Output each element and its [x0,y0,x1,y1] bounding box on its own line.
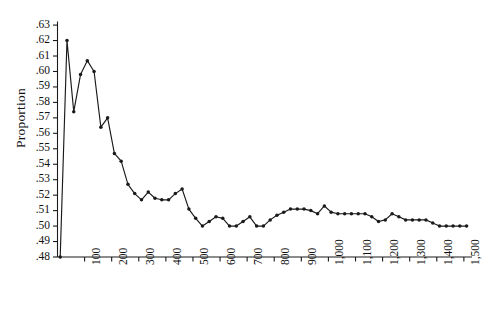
plot-area [0,0,482,315]
data-point [255,224,259,228]
data-point [438,224,442,228]
y-tick-label: .57 [20,110,50,122]
y-tick-label: .50 [20,219,50,231]
x-tick-label: 1,100 [361,239,373,265]
y-tick-label: .56 [20,126,50,138]
data-point [113,152,117,156]
data-point [140,198,144,202]
data-point [390,212,394,216]
data-point [72,110,76,114]
data-point [221,217,225,221]
x-tick-label: 1,400 [442,239,454,265]
data-point [356,212,360,216]
data-point [411,218,415,222]
data-point [99,125,103,129]
x-tick-label: 1,500 [469,239,481,265]
data-point [119,159,123,163]
data-point [370,215,374,219]
data-point [133,192,137,196]
y-tick-label: .60 [20,64,50,76]
data-point [417,218,421,222]
data-point [65,39,69,43]
x-tick-label: 700 [252,248,264,265]
data-point [86,59,90,63]
data-point [316,212,320,216]
y-tick-label: .59 [20,79,50,91]
data-point [147,190,151,194]
data-point [275,214,279,218]
data-point [167,198,171,202]
data-point [458,224,462,228]
data-point [153,197,157,201]
data-point [160,198,164,202]
data-point [309,209,313,213]
data-point [329,210,333,214]
chart-figure: Proportion .48.49.50.51.52.53.54.55.56.5… [0,0,482,315]
data-point [201,224,205,228]
data-point [106,116,110,120]
data-point [79,73,83,77]
x-tick-label: 300 [144,248,156,265]
data-point [451,224,455,228]
y-tick-label: .62 [20,33,50,45]
data-point [424,218,428,222]
data-point [180,187,184,191]
x-tick-label: 900 [306,248,318,265]
x-tick-label: 100 [90,248,102,265]
data-point [207,220,211,224]
data-point [302,207,306,211]
data-point [194,217,198,221]
x-tick-label: 1,000 [333,239,345,265]
data-point [248,215,252,219]
data-point [296,207,300,211]
data-point [214,215,218,219]
y-tick-label: .53 [20,172,50,184]
data-point [241,220,245,224]
x-tick-label: 400 [171,248,183,265]
data-point [235,224,239,228]
data-point [228,224,232,228]
x-tick-label: 600 [225,248,237,265]
data-point [58,255,62,259]
data-point [363,212,367,216]
x-tick-label: 200 [117,248,129,265]
data-point [187,207,191,211]
y-tick-label: .54 [20,157,50,169]
data-point [343,212,347,216]
y-tick-label: .55 [20,141,50,153]
data-point [262,224,266,228]
data-point [404,218,408,222]
data-point [336,212,340,216]
data-point [282,210,286,214]
data-point [174,192,178,196]
data-point [126,183,130,187]
data-point [268,218,272,222]
data-point [431,221,435,225]
y-tick-label: .61 [20,49,50,61]
y-tick-label: .58 [20,95,50,107]
y-tick-label: .48 [20,250,50,262]
data-point [377,220,381,224]
data-point [289,207,293,211]
x-tick-label: 500 [198,248,210,265]
x-tick-label: 1,200 [388,239,400,265]
y-tick-label: .52 [20,188,50,200]
data-point [384,218,388,222]
data-point [92,70,96,74]
data-point [323,204,327,208]
y-tick-label: .63 [20,18,50,30]
data-point [397,215,401,219]
y-tick-label: .51 [20,203,50,215]
x-tick-label: 1,300 [415,239,427,265]
data-point [465,224,469,228]
data-point [445,224,449,228]
data-point [350,212,354,216]
x-tick-label: 800 [279,248,291,265]
y-tick-label: .49 [20,234,50,246]
